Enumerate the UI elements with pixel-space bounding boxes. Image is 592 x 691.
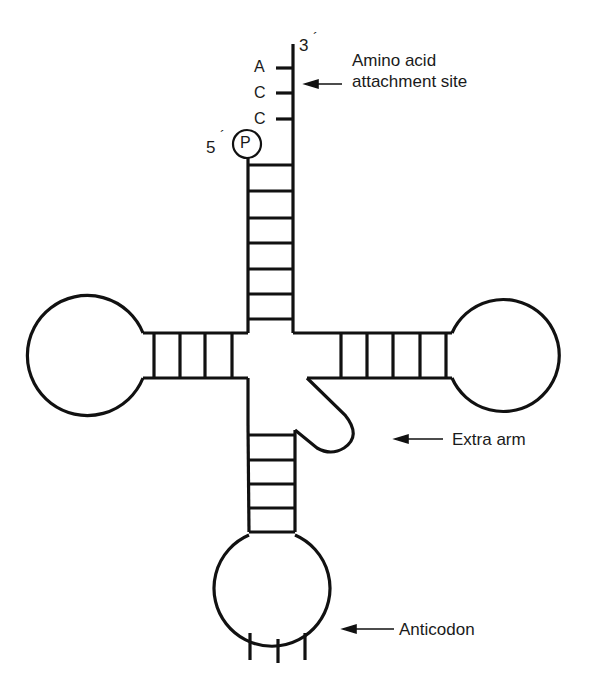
base-c1: C bbox=[254, 84, 266, 102]
amino-acid-site-line1: Amino acid bbox=[352, 50, 467, 71]
base-c2: C bbox=[254, 110, 266, 128]
anticodon-loop bbox=[214, 535, 330, 646]
phosphate-label: P bbox=[240, 134, 251, 152]
three-prime-label: 3 bbox=[299, 36, 308, 56]
amino-acid-site-line2: attachment site bbox=[352, 71, 467, 92]
extra-arm-label: Extra arm bbox=[452, 429, 526, 450]
arrow-head-extra bbox=[395, 435, 408, 443]
extra-arm bbox=[295, 378, 353, 452]
arrow-head-amino bbox=[305, 80, 318, 88]
anticodon-label: Anticodon bbox=[399, 619, 475, 640]
five-prime-mark: ´ bbox=[220, 128, 225, 144]
trna-structure bbox=[0, 0, 592, 691]
amino-acid-site-label: Amino acid attachment site bbox=[352, 50, 467, 92]
three-prime-mark: ´ bbox=[313, 30, 318, 46]
arrow-head-anticodon bbox=[343, 625, 356, 633]
five-prime-label: 5 bbox=[206, 138, 215, 158]
t-loop bbox=[452, 300, 559, 412]
d-loop bbox=[27, 296, 143, 416]
base-a: A bbox=[254, 58, 265, 76]
